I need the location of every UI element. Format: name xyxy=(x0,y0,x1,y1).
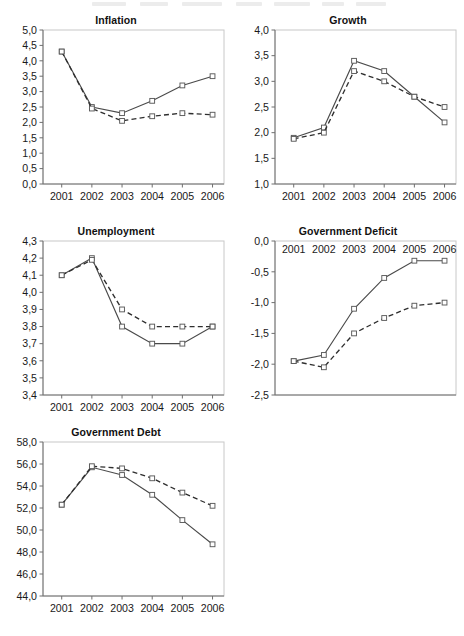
plot-frame xyxy=(43,241,224,395)
y-tick-label: 0,5 xyxy=(22,162,37,174)
data-point-marker xyxy=(210,74,215,79)
y-tick-label: 3,4 xyxy=(22,389,37,401)
y-tick-label: 3,5 xyxy=(22,372,37,384)
y-tick-label: 4,5 xyxy=(22,39,37,51)
data-point-marker xyxy=(120,111,125,116)
data-point-marker xyxy=(352,69,357,74)
chart-svg-3: 0,0-0,5-1,0-1,5-2,0-2,520012002200320042… xyxy=(232,225,464,431)
x-tick-label: 2001 xyxy=(50,602,74,614)
x-tick-label: 2005 xyxy=(403,190,427,202)
x-tick-label: 2005 xyxy=(171,401,195,413)
axis-lines xyxy=(43,30,224,184)
data-point-marker xyxy=(210,503,215,508)
x-tick-label: 2003 xyxy=(110,602,134,614)
x-tick-label: 2002 xyxy=(312,190,336,202)
x-tick-label: 2005 xyxy=(171,602,195,614)
data-point-marker xyxy=(150,98,155,103)
data-point-marker xyxy=(180,490,185,495)
y-tick-label: 3,7 xyxy=(22,337,37,349)
data-point-marker xyxy=(180,111,185,116)
x-tick-label: 2006 xyxy=(201,602,225,614)
x-tick-label: 2004 xyxy=(372,243,396,255)
chart-panel-growth: Growth 1,01,52,02,53,03,54,0200120022003… xyxy=(232,14,464,220)
data-point-marker xyxy=(120,473,125,478)
y-tick-label: 56,0 xyxy=(16,458,37,470)
data-point-marker xyxy=(59,502,64,507)
y-tick-label: 2,0 xyxy=(22,116,37,128)
data-point-marker xyxy=(180,518,185,523)
x-tick-label: 2005 xyxy=(403,243,427,255)
data-point-marker xyxy=(442,105,447,110)
data-point-marker xyxy=(412,303,417,308)
x-tick-label: 2004 xyxy=(372,190,396,202)
plot-frame xyxy=(275,241,456,395)
y-tick-label: -2,5 xyxy=(251,389,269,401)
x-tick-label: 2004 xyxy=(140,190,164,202)
y-tick-label: -0,5 xyxy=(251,266,269,278)
chart-panel-government-deficit: Government Deficit 0,0-0,5-1,0-1,5-2,0-2… xyxy=(232,225,464,431)
y-tick-label: 2,5 xyxy=(254,101,269,113)
y-tick-label: 50,0 xyxy=(16,524,37,536)
y-tick-label: 3,5 xyxy=(254,49,269,61)
axis-lines xyxy=(43,241,224,395)
y-tick-label: 3,5 xyxy=(22,70,37,82)
chart-svg-2: 3,43,53,63,73,83,94,04,14,24,32001200220… xyxy=(0,225,232,431)
y-tick-label: 44,0 xyxy=(16,590,37,602)
axis-lines xyxy=(43,442,224,596)
data-point-marker xyxy=(210,324,215,329)
data-point-marker xyxy=(442,300,447,305)
data-point-marker xyxy=(120,466,125,471)
data-point-marker xyxy=(291,359,296,364)
x-tick-label: 2002 xyxy=(312,243,336,255)
data-point-marker xyxy=(150,476,155,481)
y-tick-label: 2,5 xyxy=(22,101,37,113)
y-tick-label: 54,0 xyxy=(16,480,37,492)
y-tick-label: 2,0 xyxy=(254,126,269,138)
data-point-marker xyxy=(412,94,417,99)
y-tick-label: 4,0 xyxy=(22,286,37,298)
x-tick-label: 2003 xyxy=(342,243,366,255)
series-line-solid xyxy=(62,52,213,114)
x-tick-label: 2001 xyxy=(282,190,306,202)
y-tick-label: 3,6 xyxy=(22,355,37,367)
y-tick-label: 1,0 xyxy=(22,147,37,159)
chart-svg-1: 1,01,52,02,53,03,54,02001200220032004200… xyxy=(232,14,464,220)
y-tick-label: -1,0 xyxy=(251,296,269,308)
axis-lines xyxy=(275,30,456,184)
series-line-dashed xyxy=(62,52,213,121)
y-tick-label: 1,5 xyxy=(254,152,269,164)
data-point-marker xyxy=(120,324,125,329)
data-point-marker xyxy=(321,365,326,370)
chart-title: Inflation xyxy=(0,14,232,26)
data-point-marker xyxy=(382,69,387,74)
series-line-dashed xyxy=(62,260,213,327)
chart-title: Government Deficit xyxy=(232,225,464,237)
data-point-marker xyxy=(412,258,417,263)
series-line-solid xyxy=(62,258,213,344)
x-tick-label: 2004 xyxy=(140,602,164,614)
x-tick-label: 2001 xyxy=(50,190,74,202)
x-tick-label: 2001 xyxy=(282,243,306,255)
chart-svg-0: 0,00,51,01,52,02,53,03,54,04,55,02001200… xyxy=(0,14,232,220)
data-point-marker xyxy=(352,58,357,63)
data-point-marker xyxy=(120,118,125,123)
data-point-marker xyxy=(210,542,215,547)
x-tick-label: 2002 xyxy=(80,190,104,202)
data-point-marker xyxy=(150,341,155,346)
data-point-marker xyxy=(321,353,326,358)
data-point-marker xyxy=(89,106,94,111)
x-tick-label: 2002 xyxy=(80,602,104,614)
series-line-solid xyxy=(294,261,445,361)
data-point-marker xyxy=(442,258,447,263)
y-tick-label: 4,0 xyxy=(22,55,37,67)
data-point-marker xyxy=(442,120,447,125)
y-tick-label: 3,0 xyxy=(22,85,37,97)
x-tick-label: 2005 xyxy=(171,190,195,202)
x-tick-label: 2004 xyxy=(140,401,164,413)
x-tick-label: 2003 xyxy=(342,190,366,202)
axis-lines xyxy=(275,241,456,395)
data-point-marker xyxy=(210,112,215,117)
chart-title: Unemployment xyxy=(0,225,232,237)
data-point-marker xyxy=(291,136,296,141)
y-tick-label: 4,2 xyxy=(22,252,37,264)
